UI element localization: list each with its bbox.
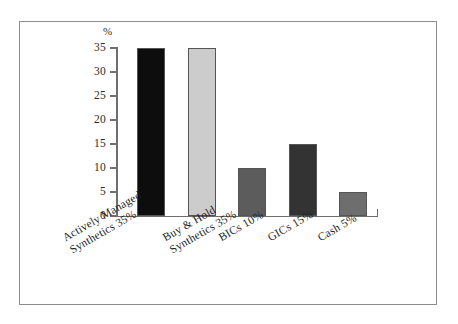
bar-3 — [238, 168, 266, 216]
y-axis-tick-label: 20 — [68, 114, 106, 126]
y-axis-tick — [110, 143, 116, 144]
y-axis-tick-label: 0 — [68, 210, 106, 222]
y-axis-tick-label: 15 — [68, 138, 106, 150]
y-axis-tick — [110, 71, 116, 72]
y-axis-tick — [110, 47, 116, 48]
chart-screenshot: % 35302520151050 Actively ManagedSynthet… — [0, 0, 458, 324]
y-axis-tick-label: 25 — [68, 90, 106, 102]
y-axis-tick — [110, 95, 116, 96]
y-axis-tick-labels: 35302520151050 — [62, 0, 106, 324]
bar-4 — [289, 144, 317, 216]
y-axis-tick — [110, 191, 116, 192]
y-axis-tick-label: 10 — [68, 162, 106, 174]
y-axis-tick — [110, 215, 116, 216]
y-axis-tick — [110, 167, 116, 168]
plot-area — [117, 48, 378, 216]
bar-1 — [137, 48, 165, 216]
y-axis-tick-label: 30 — [68, 66, 106, 78]
bar-5 — [339, 192, 367, 216]
y-axis-tick-label: 5 — [68, 186, 106, 198]
y-axis-tick — [110, 119, 116, 120]
y-axis-tick-label: 35 — [68, 42, 106, 54]
bar-2 — [188, 48, 216, 216]
